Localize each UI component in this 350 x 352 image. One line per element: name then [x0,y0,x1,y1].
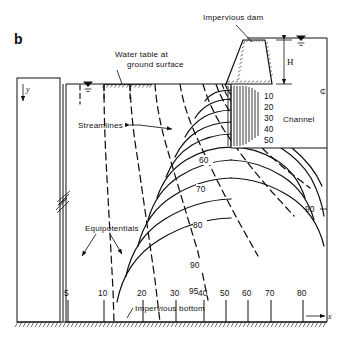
x-tick-30: 30 [170,288,180,298]
x-tick-10: 10 [98,288,108,298]
x-axis-label: x [327,312,332,321]
water-table-leader [117,70,122,84]
streamlines-label: Streamlines [78,121,123,130]
water-table-label-line1: Water table at [115,50,168,59]
equipotential-label-30: 30 [264,113,274,123]
streamlines-leader-right [139,125,172,129]
equipotential-label-20: 20 [264,102,274,112]
equipotential-label-10: 10 [264,91,274,101]
water-surface-symbol-right [296,36,306,46]
impervious-dam [226,40,273,84]
x-tick-5: 5 [64,288,69,298]
toe-streamline-hatch [228,86,258,146]
left-boundary-block [17,78,60,322]
equipotential-label-80: 80 [193,220,203,230]
svg-text:90: 90 [305,204,315,214]
field-equipotential-labels: 60 70 80 90 95 [189,155,213,296]
equipotential-label-70: 70 [196,184,206,194]
equipotential-label-50: 50 [264,135,274,145]
impervious-bottom-hatching [15,322,327,327]
streamline-verticals [80,85,130,104]
x-tick-50: 50 [220,288,230,298]
water-surface-symbol-left [83,82,93,92]
channel-label: Channel [283,115,315,124]
x-axis-tick-labels: 5 10 20 30 40 50 60 70 80 [64,288,307,298]
x-tick-80: 80 [297,288,307,298]
equipotential-label-90: 90 [190,260,200,270]
x-tick-60: 60 [242,288,252,298]
centerline-symbol: ₵ [320,87,326,96]
y-axis-label: y [25,85,30,94]
head-label: H [287,57,294,67]
equipotentials-leader-b [110,234,122,254]
impervious-bottom-leader [127,308,133,318]
x-tick-20: 20 [137,288,147,298]
water-table-label-line2: ground surface [127,60,184,69]
channel-equipotential-labels: 10 20 30 40 50 [264,91,274,145]
streamline-curves [104,84,310,322]
equipotential-label-60: 60 [199,155,209,165]
dam-title-label: Impervious dam [203,13,263,22]
equipotential-label-40: 40 [264,124,274,134]
equipotentials-leader-a [82,234,96,256]
seepage-flow-net-diagram: b [0,0,350,352]
impervious-bottom-label: Impervious bottom [135,304,205,313]
equipotentials-label: Equipotentials [85,224,139,233]
break-symbol [56,84,70,322]
panel-letter: b [14,31,23,47]
x-tick-70: 70 [265,288,275,298]
figure-canvas: b [0,0,350,352]
water-table-ground-surface [102,84,152,88]
x-tick-40: 40 [198,288,208,298]
